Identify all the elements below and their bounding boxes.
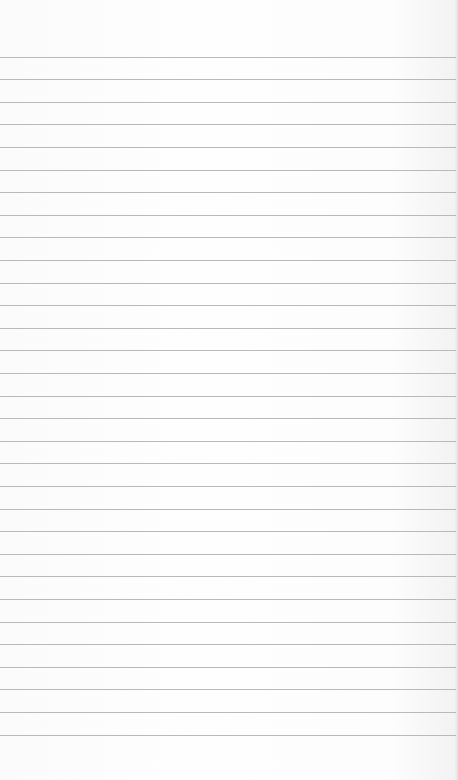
ruled-line xyxy=(0,350,456,351)
ruled-line xyxy=(0,328,456,329)
ruled-line xyxy=(0,305,456,306)
ruled-line xyxy=(0,622,456,623)
ruled-line xyxy=(0,486,456,487)
ruled-line xyxy=(0,689,456,690)
ruled-line xyxy=(0,124,456,125)
ruled-line xyxy=(0,147,456,148)
ruled-line xyxy=(0,215,456,216)
ruled-line xyxy=(0,396,456,397)
ruled-line xyxy=(0,509,456,510)
ruled-line xyxy=(0,418,456,419)
ruled-line xyxy=(0,79,456,80)
ruled-line xyxy=(0,260,456,261)
ruled-line xyxy=(0,531,456,532)
ruled-line xyxy=(0,170,456,171)
ruled-line xyxy=(0,735,456,736)
ruled-line xyxy=(0,463,456,464)
ruled-line xyxy=(0,283,456,284)
ruled-line xyxy=(0,576,456,577)
ruled-line xyxy=(0,102,456,103)
ruled-line xyxy=(0,712,456,713)
ruled-line xyxy=(0,441,456,442)
ruled-line xyxy=(0,57,456,58)
ruled-line xyxy=(0,554,456,555)
ruled-line xyxy=(0,237,456,238)
ruled-line xyxy=(0,644,456,645)
ruled-line xyxy=(0,373,456,374)
lined-paper-sheet xyxy=(0,0,458,780)
ruled-line xyxy=(0,192,456,193)
ruled-line xyxy=(0,667,456,668)
ruled-line xyxy=(0,599,456,600)
